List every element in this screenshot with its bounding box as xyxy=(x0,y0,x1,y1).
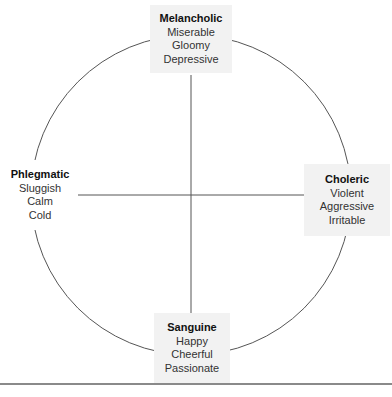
melancholic-box: Melancholic Miserable Gloomy Depressive xyxy=(150,5,232,73)
phlegmatic-trait: Cold xyxy=(29,209,52,223)
melancholic-trait: Miserable xyxy=(167,26,215,40)
bottom-divider xyxy=(0,383,392,385)
choleric-trait: Violent xyxy=(330,187,363,201)
choleric-box: Choleric Violent Aggressive Irritable xyxy=(304,164,390,236)
choleric-title: Choleric xyxy=(325,173,369,187)
choleric-trait: Irritable xyxy=(329,214,366,228)
melancholic-title: Melancholic xyxy=(160,12,223,26)
phlegmatic-title: Phlegmatic xyxy=(11,168,70,182)
phlegmatic-box: Phlegmatic Sluggish Calm Cold xyxy=(4,160,76,230)
melancholic-trait: Depressive xyxy=(163,53,218,67)
melancholic-trait: Gloomy xyxy=(172,39,210,53)
phlegmatic-trait: Calm xyxy=(27,195,53,209)
sanguine-title: Sanguine xyxy=(167,321,217,335)
sanguine-trait: Passionate xyxy=(165,362,219,376)
phlegmatic-trait: Sluggish xyxy=(19,182,61,196)
sanguine-trait: Happy xyxy=(176,335,208,349)
choleric-trait: Aggressive xyxy=(320,200,374,214)
sanguine-box: Sanguine Happy Cheerful Passionate xyxy=(154,313,230,383)
sanguine-trait: Cheerful xyxy=(171,348,213,362)
